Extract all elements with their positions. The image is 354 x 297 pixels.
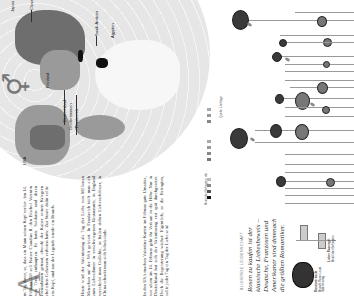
region-usa <box>30 125 65 150</box>
rose-marker <box>326 178 335 187</box>
chart-stem <box>285 195 354 196</box>
chart-stem <box>285 181 354 182</box>
legend-swatch <box>207 108 211 111</box>
region-south-america <box>75 115 125 140</box>
leader-line <box>31 10 32 22</box>
legend-note: Rosenverkäufe Anzahl Rosen zum Valentins… <box>315 264 326 292</box>
map-label-egypt: Ägypten <box>110 23 115 38</box>
region-highlight-2 <box>78 50 83 62</box>
rose-marker <box>295 124 309 140</box>
magazine-page: ⚥ Japan China Saudi-Arabien Ägypten Finn… <box>0 0 354 297</box>
rose-marker <box>275 94 284 104</box>
gender-symbol-icon: ⚥ <box>0 60 36 96</box>
leaf-decoration <box>285 57 291 62</box>
chart-stem <box>272 56 354 57</box>
legend-note-text: Anzahl Rosen zum Valentinstag <box>318 267 326 292</box>
legend-swatch <box>207 146 211 149</box>
map-label-japan: Japan <box>10 1 15 12</box>
chart-stem <box>285 64 354 65</box>
article-paragraph: In den USA machen Valentins-Karten im Fe… <box>142 176 170 296</box>
legend-swatch <box>207 190 211 193</box>
chart-stem <box>280 42 354 43</box>
article-paragraph: m Tag davor, so, dass ein Mann seinen Ko… <box>22 186 56 296</box>
rose-marker <box>230 128 248 149</box>
rose-marker <box>322 106 330 114</box>
legend-swatch <box>207 152 211 155</box>
chart-stem <box>285 80 354 81</box>
sidebar-headline: Rosen zu kaufen ist der klassische Liebe… <box>246 212 286 292</box>
leaf-decoration <box>247 22 253 27</box>
chart-stem <box>295 12 354 13</box>
legend-swatch <box>207 120 211 123</box>
chart-stem <box>285 107 354 108</box>
leader-line <box>96 36 97 46</box>
legend-swatch <box>207 158 211 161</box>
leader-line <box>76 95 77 135</box>
legend-box <box>318 233 326 249</box>
chart-stem <box>285 164 354 165</box>
legend-note: Lieber Rosengel Anteil der Befragten <box>328 234 335 262</box>
chart-stem <box>285 203 354 204</box>
article-paragraph: Heute wird der Valentinstag als Tag der … <box>80 176 108 296</box>
rose-marker <box>317 16 327 27</box>
legend-note-text: Anteil der Befragten <box>331 235 335 262</box>
chart-stem <box>285 188 354 189</box>
chart-stem <box>285 154 354 155</box>
legend-source: Quelle: Umfrage <box>219 96 223 118</box>
rose-marker <box>323 61 330 68</box>
chart-stem <box>255 142 354 143</box>
chart-stem <box>285 71 354 72</box>
map-label-china: China <box>29 0 34 10</box>
section-kicker: BLÜHENDE LEIDENSCHAFT <box>240 232 244 290</box>
legend-rose-icon <box>292 262 314 288</box>
legend-box <box>300 225 308 241</box>
map-label-uk: Großbritannien <box>68 103 73 130</box>
chart-stem <box>285 172 354 173</box>
chart-stem <box>240 20 354 21</box>
rose-marker <box>232 10 249 30</box>
rose-marker <box>270 124 282 138</box>
legend-swatch <box>207 178 211 181</box>
region-highlight <box>96 58 108 68</box>
legend-title: Anteil der Befragten, die ... <box>204 169 208 205</box>
leader-line <box>64 90 65 125</box>
chart-stem <box>285 116 354 117</box>
map-label-finland: Finnland <box>45 73 50 88</box>
chart-stem <box>280 98 354 99</box>
rose-marker <box>317 82 328 94</box>
legend-swatch <box>207 114 211 117</box>
rose-marker <box>272 52 282 62</box>
map-label-saudi-arabia: Saudi-Arabien <box>94 11 99 36</box>
map-label-usa: USA <box>22 157 27 165</box>
legend-swatch <box>207 196 211 199</box>
legend-swatch <box>207 184 211 187</box>
rose-marker <box>279 39 287 47</box>
region-africa <box>95 40 180 110</box>
legend-swatch <box>207 140 211 143</box>
rose-marker <box>276 176 286 187</box>
chart-stem <box>280 35 354 36</box>
